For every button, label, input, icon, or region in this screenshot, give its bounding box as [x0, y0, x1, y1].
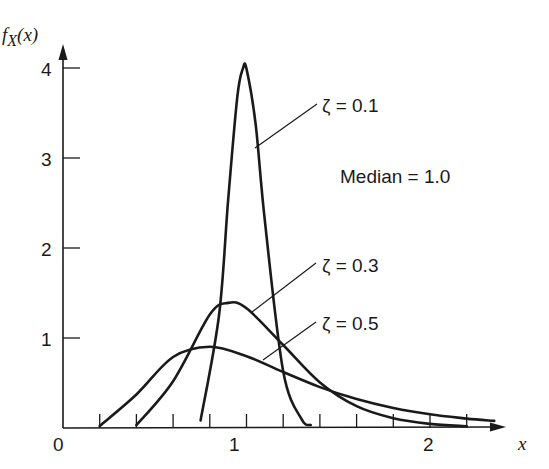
leader-zeta05 — [263, 322, 316, 360]
x-tick-label-2: 2 — [423, 434, 434, 455]
label-zeta05: ζ = 0.5 — [322, 313, 378, 334]
y-tick-label-2: 2 — [41, 239, 52, 260]
y-tick-label-3: 3 — [41, 149, 52, 170]
y-axis-label: fX(x) — [2, 24, 38, 49]
x-tick-label-0: 0 — [53, 434, 64, 455]
y-tick-label-1: 1 — [41, 329, 52, 350]
curve-03 — [136, 302, 466, 426]
x-axis — [63, 427, 492, 428]
y-axis-arrow-icon — [59, 44, 68, 60]
label-zeta03: ζ = 0.3 — [322, 255, 378, 276]
median-annotation: Median = 1.0 — [340, 166, 450, 187]
leader-zeta01 — [255, 104, 317, 148]
x-tick-label-1: 1 — [229, 434, 240, 455]
y-tick-label-4: 4 — [41, 59, 52, 80]
curve-01 — [201, 64, 311, 426]
x-axis-label: x — [517, 433, 527, 454]
x-axis-arrow-icon — [490, 423, 506, 432]
y-ticks — [63, 68, 80, 338]
leader-zeta03 — [252, 263, 316, 312]
label-zeta01: ζ = 0.1 — [322, 95, 378, 116]
lognormal-pdf-chart: fX(x) x 4 3 2 1 0 1 2 ζ = 0.1 ζ = 0.3 ζ … — [0, 0, 549, 469]
